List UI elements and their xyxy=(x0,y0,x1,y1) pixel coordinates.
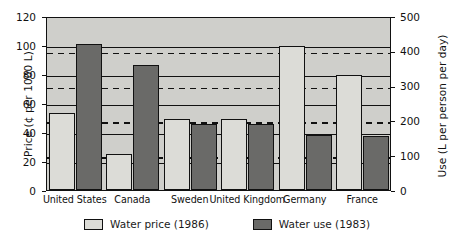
bar-water-use xyxy=(191,124,217,190)
legend-label-price: Water price (1986) xyxy=(110,218,209,230)
bar-water-price xyxy=(221,119,247,190)
bar-water-price xyxy=(279,46,305,190)
bar-water-price xyxy=(336,75,362,190)
chart-legend: Water price (1986) Water use (1983) xyxy=(0,218,454,230)
bar-water-use xyxy=(133,65,159,190)
bar-water-price xyxy=(49,113,75,190)
right-axis-tick-label-200: 200 xyxy=(400,116,440,127)
right-axis-tick-300 xyxy=(391,87,395,88)
figure-caption xyxy=(2,238,152,247)
left-axis-tick-80 xyxy=(42,75,46,76)
legend-swatch-price-icon xyxy=(84,219,103,230)
right-axis-tick-label-100: 100 xyxy=(400,151,440,162)
right-axis-tick-400 xyxy=(391,52,395,53)
legend-item-water-use: Water use (1983) xyxy=(253,218,370,230)
bar-group xyxy=(49,18,102,190)
left-axis-tick-20 xyxy=(42,162,46,163)
bar-water-price xyxy=(106,154,132,190)
left-axis-tick-120 xyxy=(42,17,46,18)
left-axis-tick-label-60: 60 xyxy=(0,99,36,110)
left-axis-tick-label-80: 80 xyxy=(0,70,36,81)
right-axis-tick-label-500: 500 xyxy=(400,12,440,23)
right-axis-tick-100 xyxy=(391,156,395,157)
bar-water-use xyxy=(363,136,389,190)
bar-water-use xyxy=(248,124,274,190)
legend-swatch-use-icon xyxy=(253,219,272,230)
right-axis-tick-label-400: 400 xyxy=(400,46,440,57)
left-axis-tick-label-40: 40 xyxy=(0,128,36,139)
bar-water-use xyxy=(76,44,102,190)
bar-group xyxy=(106,18,159,190)
left-axis-tick-0 xyxy=(42,191,46,192)
legend-label-use: Water use (1983) xyxy=(279,218,370,230)
bar-group xyxy=(164,18,217,190)
chart-figure: Price (¢ per 1000 L) Use (L per person p… xyxy=(0,0,454,247)
left-axis-tick-40 xyxy=(42,133,46,134)
left-axis-tick-label-100: 100 xyxy=(0,41,36,52)
legend-item-water-price: Water price (1986) xyxy=(84,218,209,230)
left-axis-tick-100 xyxy=(42,46,46,47)
right-axis-tick-0 xyxy=(391,191,395,192)
category-label-france: France xyxy=(317,194,407,205)
bar-water-use xyxy=(306,135,332,190)
right-axis-tick-500 xyxy=(391,17,395,18)
left-axis-tick-label-120: 120 xyxy=(0,12,36,23)
bar-group xyxy=(279,18,332,190)
bar-group xyxy=(221,18,274,190)
plot-area xyxy=(46,17,391,191)
bar-water-price xyxy=(164,119,190,190)
bar-group xyxy=(336,18,389,190)
right-axis-tick-200 xyxy=(391,121,395,122)
left-axis-tick-label-20: 20 xyxy=(0,157,36,168)
right-axis-tick-label-300: 300 xyxy=(400,81,440,92)
left-axis-tick-60 xyxy=(42,104,46,105)
